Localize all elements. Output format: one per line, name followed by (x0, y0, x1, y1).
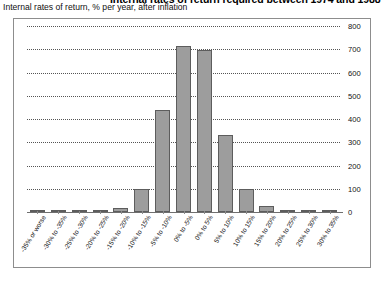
y-axis-tick-label: 200 (348, 161, 361, 170)
bar (197, 50, 212, 212)
bar-slot (236, 17, 257, 212)
bar-slot (194, 17, 215, 212)
x-axis-tickmark (267, 211, 268, 214)
x-axis-tickmark (204, 211, 205, 214)
bar-slot (48, 17, 69, 212)
bar-slot (215, 17, 236, 212)
x-axis-tickmark (309, 211, 310, 214)
bar (218, 135, 233, 212)
bar-slot (277, 17, 298, 212)
bar (239, 189, 254, 212)
x-axis-labels: -35% or worse-30% to -35%-25% to -30%-20… (27, 214, 340, 280)
x-axis-line (27, 212, 343, 213)
x-axis-tickmark (121, 211, 122, 214)
bar (176, 46, 191, 212)
bar-slot (69, 17, 90, 212)
x-axis-tickmark (225, 211, 226, 214)
bar (134, 189, 149, 212)
y-axis-tick-label: 0 (348, 208, 352, 217)
chart-figure: Internal rates of return required betwee… (0, 0, 387, 284)
bar-slot (173, 17, 194, 212)
x-axis-tickmark (184, 211, 185, 214)
y-axis-tick-label: 400 (348, 115, 361, 124)
bar-slot (298, 17, 319, 212)
y-axis-tick-label: 700 (348, 45, 361, 54)
x-axis-tick-label: 0% to 5% (194, 214, 215, 241)
x-axis-tick-label: 0% to -5% (172, 214, 194, 243)
x-axis-tickmark (37, 211, 38, 214)
x-axis-tickmark (330, 211, 331, 214)
bar (155, 110, 170, 212)
x-axis-tick-label: 5% to 10% (213, 214, 236, 244)
bar-slot (110, 17, 131, 212)
bar-slot (152, 17, 173, 212)
bar-slot (257, 17, 278, 212)
y-axis-tick-label: 500 (348, 91, 361, 100)
x-axis-tick-label: -5% to -10% (148, 214, 173, 248)
x-axis-tickmark (58, 211, 59, 214)
x-axis-tickmark (100, 211, 101, 214)
chart-subtitle: Internal rates of return, % per year, af… (3, 2, 187, 12)
y-axis-tick-label: 800 (348, 22, 361, 31)
bar-slot (131, 17, 152, 212)
y-axis-tick-label: 100 (348, 184, 361, 193)
y-axis-tick-label: 600 (348, 68, 361, 77)
x-axis-tickmark (163, 211, 164, 214)
x-axis-tick-label: 30% to 35% (315, 214, 340, 247)
x-axis-tickmark (142, 211, 143, 214)
bar-slot (319, 17, 340, 212)
x-axis-tickmark (246, 211, 247, 214)
x-axis-tickmark (79, 211, 80, 214)
y-axis-tick-label: 300 (348, 138, 361, 147)
x-axis-tickmark (288, 211, 289, 214)
bar-slot (90, 17, 111, 212)
bar-series (27, 17, 340, 212)
bar-slot (27, 17, 48, 212)
